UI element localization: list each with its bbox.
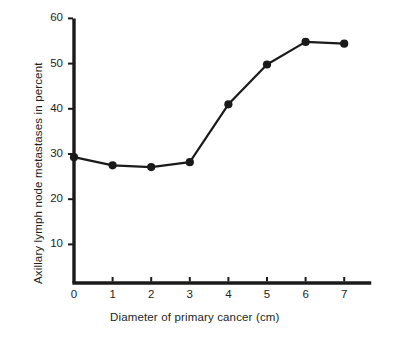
chart-axes — [72, 18, 371, 283]
y-tick-label: 30 — [41, 147, 63, 159]
y-tick-label: 60 — [41, 11, 63, 23]
x-axis-title: Diameter of primary cancer (cm) — [110, 311, 280, 323]
y-tick-label: 50 — [41, 57, 63, 69]
x-tick-label: 2 — [143, 288, 159, 300]
y-tick-label: 10 — [41, 237, 63, 249]
x-tick-label: 1 — [105, 288, 121, 300]
y-tick-label: 40 — [41, 102, 63, 114]
x-tick-label: 0 — [66, 288, 82, 300]
y-tick-label: 20 — [41, 192, 63, 204]
x-tick-label: 5 — [259, 288, 275, 300]
data-point-markers — [70, 38, 348, 171]
chart-figure: 605040302010 01234567 Axillary lymph nod… — [0, 0, 398, 340]
x-tick-label: 6 — [298, 288, 314, 300]
y-axis-title: Axillary lymph node metastases in percen… — [32, 62, 44, 284]
x-tick-label: 7 — [336, 288, 352, 300]
x-tick-label: 3 — [182, 288, 198, 300]
x-tick-label: 4 — [220, 288, 236, 300]
chart-tick-marks — [68, 18, 344, 281]
data-series-line — [74, 42, 344, 167]
